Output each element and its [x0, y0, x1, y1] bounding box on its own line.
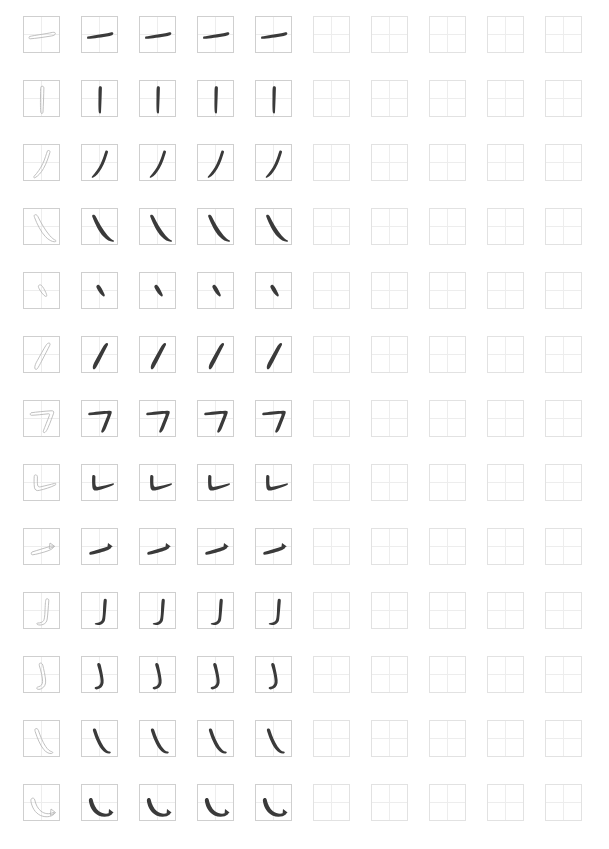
practice-cell[interactable] [371, 656, 408, 693]
practice-cell[interactable] [81, 656, 118, 693]
practice-cell[interactable] [255, 208, 292, 245]
practice-cell[interactable] [23, 400, 60, 437]
practice-cell[interactable] [429, 528, 466, 565]
practice-cell[interactable] [255, 144, 292, 181]
practice-cell[interactable] [139, 784, 176, 821]
practice-cell[interactable] [371, 528, 408, 565]
practice-cell[interactable] [487, 784, 524, 821]
practice-cell[interactable] [545, 592, 582, 629]
practice-cell[interactable] [313, 16, 350, 53]
practice-cell[interactable] [23, 464, 60, 501]
practice-cell[interactable] [81, 208, 118, 245]
practice-cell[interactable] [429, 464, 466, 501]
practice-cell[interactable] [313, 144, 350, 181]
practice-cell[interactable] [429, 336, 466, 373]
practice-cell[interactable] [545, 720, 582, 757]
practice-cell[interactable] [255, 784, 292, 821]
practice-cell[interactable] [487, 528, 524, 565]
practice-cell[interactable] [139, 272, 176, 309]
practice-cell[interactable] [197, 336, 234, 373]
practice-cell[interactable] [139, 592, 176, 629]
practice-cell[interactable] [81, 592, 118, 629]
practice-cell[interactable] [255, 528, 292, 565]
practice-cell[interactable] [545, 656, 582, 693]
practice-cell[interactable] [139, 464, 176, 501]
practice-cell[interactable] [429, 80, 466, 117]
practice-cell[interactable] [371, 16, 408, 53]
practice-cell[interactable] [313, 656, 350, 693]
practice-cell[interactable] [255, 720, 292, 757]
practice-cell[interactable] [197, 784, 234, 821]
practice-cell[interactable] [197, 144, 234, 181]
practice-cell[interactable] [23, 592, 60, 629]
practice-cell[interactable] [429, 720, 466, 757]
practice-cell[interactable] [81, 720, 118, 757]
practice-cell[interactable] [487, 272, 524, 309]
practice-cell[interactable] [371, 720, 408, 757]
practice-cell[interactable] [255, 592, 292, 629]
practice-cell[interactable] [371, 208, 408, 245]
practice-cell[interactable] [429, 16, 466, 53]
practice-cell[interactable] [487, 80, 524, 117]
practice-cell[interactable] [197, 528, 234, 565]
practice-cell[interactable] [81, 400, 118, 437]
practice-cell[interactable] [23, 272, 60, 309]
practice-cell[interactable] [139, 336, 176, 373]
practice-cell[interactable] [429, 592, 466, 629]
practice-cell[interactable] [81, 272, 118, 309]
practice-cell[interactable] [487, 400, 524, 437]
practice-cell[interactable] [23, 528, 60, 565]
practice-cell[interactable] [487, 464, 524, 501]
practice-cell[interactable] [197, 16, 234, 53]
practice-cell[interactable] [197, 208, 234, 245]
practice-cell[interactable] [139, 208, 176, 245]
practice-cell[interactable] [81, 80, 118, 117]
practice-cell[interactable] [23, 144, 60, 181]
practice-cell[interactable] [81, 16, 118, 53]
practice-cell[interactable] [23, 16, 60, 53]
practice-cell[interactable] [255, 16, 292, 53]
practice-cell[interactable] [313, 720, 350, 757]
practice-cell[interactable] [429, 272, 466, 309]
practice-cell[interactable] [255, 400, 292, 437]
practice-cell[interactable] [545, 336, 582, 373]
practice-cell[interactable] [139, 656, 176, 693]
practice-cell[interactable] [313, 528, 350, 565]
practice-cell[interactable] [487, 16, 524, 53]
practice-cell[interactable] [429, 144, 466, 181]
practice-cell[interactable] [313, 592, 350, 629]
practice-cell[interactable] [255, 464, 292, 501]
practice-cell[interactable] [545, 272, 582, 309]
practice-cell[interactable] [429, 784, 466, 821]
practice-cell[interactable] [255, 656, 292, 693]
practice-cell[interactable] [487, 144, 524, 181]
practice-cell[interactable] [545, 16, 582, 53]
practice-cell[interactable] [313, 272, 350, 309]
practice-cell[interactable] [313, 208, 350, 245]
practice-cell[interactable] [81, 784, 118, 821]
practice-cell[interactable] [313, 400, 350, 437]
practice-cell[interactable] [545, 208, 582, 245]
practice-cell[interactable] [371, 592, 408, 629]
practice-cell[interactable] [23, 720, 60, 757]
practice-cell[interactable] [487, 208, 524, 245]
practice-cell[interactable] [197, 720, 234, 757]
practice-cell[interactable] [371, 80, 408, 117]
practice-cell[interactable] [487, 720, 524, 757]
practice-cell[interactable] [429, 656, 466, 693]
practice-cell[interactable] [139, 16, 176, 53]
practice-cell[interactable] [371, 272, 408, 309]
practice-cell[interactable] [255, 272, 292, 309]
practice-cell[interactable] [429, 208, 466, 245]
practice-cell[interactable] [545, 80, 582, 117]
practice-cell[interactable] [371, 464, 408, 501]
practice-cell[interactable] [81, 336, 118, 373]
practice-cell[interactable] [313, 464, 350, 501]
practice-cell[interactable] [139, 720, 176, 757]
practice-cell[interactable] [23, 208, 60, 245]
practice-cell[interactable] [371, 336, 408, 373]
practice-cell[interactable] [255, 336, 292, 373]
practice-cell[interactable] [371, 144, 408, 181]
practice-cell[interactable] [255, 80, 292, 117]
practice-cell[interactable] [487, 592, 524, 629]
